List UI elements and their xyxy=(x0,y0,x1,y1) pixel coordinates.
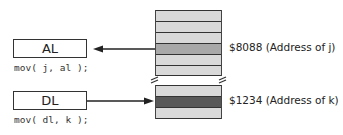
address-label-k: $1234 (Address of k) xyxy=(229,94,339,106)
break-mark-icon xyxy=(151,77,226,83)
arrow-dl-to-memory xyxy=(87,98,154,105)
arrow-memory-to-al xyxy=(93,46,155,53)
diagram-arrows xyxy=(0,0,343,135)
address-label-j: $8088 (Address of j) xyxy=(229,41,335,53)
